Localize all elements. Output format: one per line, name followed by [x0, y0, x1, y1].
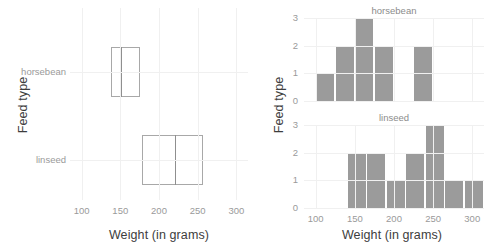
boxplot-x-axis-title: Weight (in grams): [70, 228, 248, 242]
histogram-x-tick-100: 100: [296, 213, 336, 224]
histogram-bar-linseed-6: [465, 180, 483, 208]
histogram-y-tick-linseed-0: 0: [280, 202, 298, 213]
facet-title-linseed: linseed: [304, 112, 484, 123]
histogram-bar-linseed-2: [387, 180, 405, 208]
boxplot-x-tick-200: 200: [139, 205, 179, 216]
boxplot-x-tick-250: 250: [178, 205, 218, 216]
figure-root: Feed type Weight (in grams) horsebeanlin…: [0, 0, 484, 251]
histogram-y-tick-linseed-1: 1: [280, 174, 298, 185]
facet-title-horsebean: horsebean: [304, 5, 484, 16]
histogram-gridline-x-0-100: [316, 18, 317, 101]
histogram-gridline-y-1-0: [304, 208, 484, 209]
histogram-gridline-y-0-3: [304, 18, 484, 19]
histogram-gridline-x-1-100: [316, 125, 317, 208]
histogram-gridline-x-0-300: [472, 18, 473, 101]
histogram-gridline-y-0-2: [304, 46, 484, 47]
histogram-x-tick-200: 200: [374, 213, 414, 224]
histogram-y-tick-linseed-2: 2: [280, 147, 298, 158]
histogram-gridline-x-0-150: [355, 18, 356, 101]
histogram-gridline-x-1-300: [472, 125, 473, 208]
histogram-gridline-x-1-250: [433, 125, 434, 208]
boxplot-gridline-x-250: [198, 8, 199, 200]
histogram-x-axis-title: Weight (in grams): [300, 228, 484, 242]
histogram-gridline-y-1-1: [304, 180, 484, 181]
boxplot-gridline-x-300: [236, 8, 237, 200]
boxplot-gridline-x-200: [159, 8, 160, 200]
histogram-bar-linseed-5: [445, 180, 463, 208]
boxplot-category-label-linseed: linseed: [6, 154, 66, 165]
histogram-gridline-y-0-0: [304, 101, 484, 102]
histogram-x-tick-150: 150: [335, 213, 375, 224]
histogram-x-tick-250: 250: [413, 213, 453, 224]
boxplot-x-tick-300: 300: [216, 205, 256, 216]
boxplot-category-label-horsebean: horsebean: [6, 66, 66, 77]
boxplot-x-tick-100: 100: [62, 205, 102, 216]
histogram-bar-horsebean-2: [355, 18, 373, 101]
boxplot-x-tick-150: 150: [100, 205, 140, 216]
histogram-y-tick-linseed-3: 3: [280, 119, 298, 130]
boxplot-gridline-y-horsebean: [70, 72, 248, 73]
boxplot-gridline-y-linseed: [70, 160, 248, 161]
histogram-y-tick-horsebean-2: 2: [280, 40, 298, 51]
boxplot-gridline-x-150: [120, 8, 121, 200]
histogram-y-tick-horsebean-0: 0: [280, 95, 298, 106]
histogram-gridline-x-1-200: [394, 125, 395, 208]
histogram-y-tick-horsebean-3: 3: [280, 12, 298, 23]
boxplot-gridline-x-100: [82, 8, 83, 200]
histogram-y-tick-horsebean-1: 1: [280, 67, 298, 78]
histogram-gridline-y-0-1: [304, 73, 484, 74]
histogram-gridline-y-1-2: [304, 153, 484, 154]
histogram-gridline-x-0-200: [394, 18, 395, 101]
histogram-x-tick-300: 300: [452, 213, 484, 224]
boxplot-y-axis-title: Feed type: [16, 65, 30, 145]
histogram-bar-linseed-4: [426, 125, 444, 208]
histogram-gridline-y-1-3: [304, 125, 484, 126]
histogram-bar-horsebean-0: [316, 73, 334, 101]
histogram-gridline-x-0-250: [433, 18, 434, 101]
histogram-gridline-x-1-150: [355, 125, 356, 208]
